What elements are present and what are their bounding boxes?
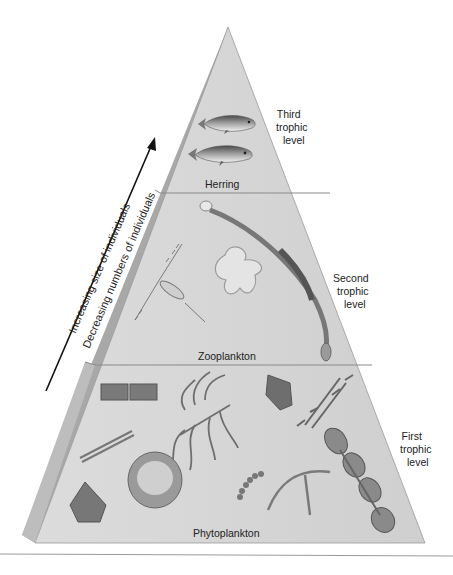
level1-trophic-label: First trophic level bbox=[392, 430, 432, 469]
level3-organism-label: Herring bbox=[205, 178, 239, 191]
level2-organism-label: Zooplankton bbox=[198, 350, 256, 363]
level3-trophic-label: Third trophic level bbox=[270, 108, 308, 147]
dinoflagellate-round-icon bbox=[128, 452, 182, 508]
level2-trophic-label: Second trophic level bbox=[333, 272, 369, 311]
trophic-pyramid-diagram: Herring Zooplankton Phytoplankton Third … bbox=[0, 0, 453, 575]
arrowhead-icon bbox=[147, 137, 156, 151]
pyramid-graphic bbox=[0, 0, 453, 575]
bottom-rule bbox=[0, 554, 453, 556]
level1-organism-label: Phytoplankton bbox=[193, 527, 260, 540]
